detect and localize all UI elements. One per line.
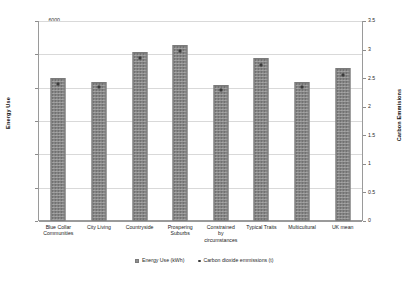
data-point-marker	[301, 85, 304, 88]
legend-item: Carbon dioxide emmissions (t)	[198, 258, 273, 263]
y-axis-left-title: Energy Use	[5, 83, 11, 143]
legend-label: Carbon dioxide emmissions (t)	[203, 258, 273, 263]
legend-bar-swatch-icon	[135, 259, 139, 263]
legend-item: Energy Use (kWh)	[135, 258, 184, 263]
x-axis-category-label: Constrained by circumstances	[201, 224, 242, 243]
legend-label: Energy Use (kWh)	[142, 258, 184, 263]
bar-group	[38, 21, 79, 221]
y-axis-right-tick-label: 3.5	[368, 18, 408, 23]
gridline	[39, 221, 362, 222]
chart-figure: Energy Use Carbon Emmisions 010002000300…	[0, 0, 409, 281]
y-axis-right-tick-mark	[363, 50, 366, 51]
data-point-marker	[260, 64, 263, 67]
data-point-marker	[341, 74, 344, 77]
bar-group	[322, 21, 363, 221]
figure-caption	[4, 271, 409, 281]
bar	[335, 68, 350, 221]
data-point-marker	[138, 57, 141, 60]
x-axis-category-label: Typical Traits	[241, 224, 282, 230]
x-axis-category-label: Blue Collar Communities	[38, 224, 79, 237]
chart-legend: Energy Use (kWh)Carbon dioxide emmission…	[0, 255, 409, 267]
y-axis-right-tick-mark	[363, 107, 366, 108]
y-axis-right-tick-mark	[363, 135, 366, 136]
y-axis-right-tick-label: 0.5	[368, 190, 408, 195]
bar-group	[160, 21, 201, 221]
bar-group	[79, 21, 120, 221]
bar-group	[241, 21, 282, 221]
bar-group	[282, 21, 323, 221]
y-axis-right-tick-label: 3	[368, 47, 408, 52]
y-axis-right-tick-mark	[363, 164, 366, 165]
bar	[51, 78, 66, 221]
bar	[91, 82, 106, 221]
x-axis-category-label: Multicultural	[282, 224, 323, 230]
y-axis-right-tick-label: 0	[368, 218, 408, 223]
y-axis-right-tick-mark	[363, 221, 366, 222]
bar	[173, 45, 188, 221]
x-axis-category-label: Prospering Suburbs	[160, 224, 201, 237]
y-axis-right-tick-label: 2.5	[368, 76, 408, 81]
data-point-marker	[179, 50, 182, 53]
data-point-marker	[97, 85, 100, 88]
x-axis-category-label: Countryside	[119, 224, 160, 230]
y-axis-right-tick-label: 1.5	[368, 133, 408, 138]
bar-group	[201, 21, 242, 221]
bar	[132, 52, 147, 221]
y-axis-right-tick-label: 2	[368, 104, 408, 109]
bar	[254, 58, 269, 221]
x-axis-category-label: City Living	[79, 224, 120, 230]
bar	[213, 85, 228, 221]
data-point-marker	[57, 82, 60, 85]
y-axis-right-tick-mark	[363, 192, 366, 193]
plot-wrapper: Energy Use Carbon Emmisions 010002000300…	[0, 0, 409, 252]
bar-series	[38, 21, 363, 221]
bar	[295, 82, 310, 221]
legend-dot-swatch-icon	[198, 260, 201, 263]
x-axis-category-labels: Blue Collar CommunitiesCity LivingCountr…	[38, 224, 363, 252]
x-axis-category-label: UK mean	[322, 224, 363, 230]
y-axis-left-tick-mark	[35, 221, 38, 222]
y-axis-right-tick-mark	[363, 78, 366, 79]
bar-group	[119, 21, 160, 221]
y-axis-right-tick-label: 1	[368, 161, 408, 166]
y-axis-right-tick-mark	[363, 21, 366, 22]
data-point-marker	[219, 88, 222, 91]
